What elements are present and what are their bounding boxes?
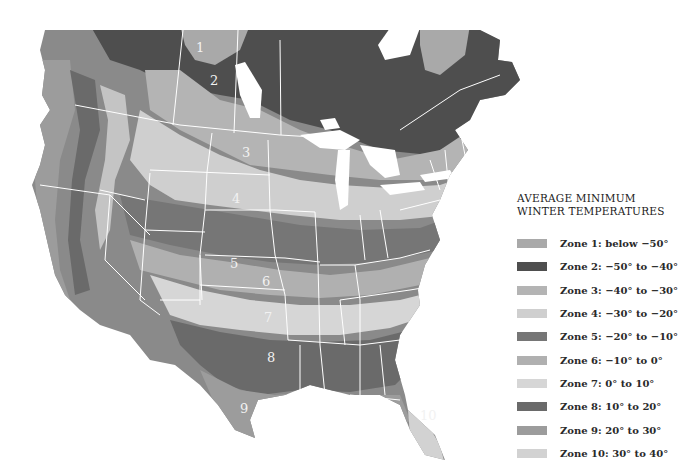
legend-item-zone-6: Zone 6: −10° to 0° [517, 348, 695, 371]
legend-label: Zone 1: below −50° [560, 238, 668, 249]
legend-item-zone-9: Zone 9: 20° to 30° [517, 418, 695, 441]
swatch-zone-2 [517, 262, 547, 271]
legend-item-zone-3: Zone 3: −40° to −30° [517, 279, 695, 302]
swatch-zone-5 [517, 332, 547, 341]
swatch-zone-7 [517, 379, 547, 388]
swatch-zone-3 [517, 286, 547, 295]
legend-label: Zone 7: 0° to 10° [560, 378, 654, 389]
zone-number-7: 7 [264, 310, 272, 325]
legend-label: Zone 9: 20° to 30° [560, 425, 661, 436]
legend: AVERAGE MINIMUM WINTER TEMPERATURES Zone… [517, 192, 695, 465]
legend-item-zone-10: Zone 10: 30° to 40° [517, 442, 695, 465]
legend-item-zone-4: Zone 4: −30° to −20° [517, 302, 695, 325]
swatch-zone-9 [517, 426, 547, 435]
legend-label: Zone 3: −40° to −30° [560, 285, 678, 296]
swatch-zone-1 [517, 239, 547, 248]
legend-label: Zone 6: −10° to 0° [560, 355, 663, 366]
legend-label: Zone 8: 10° to 20° [560, 401, 661, 412]
legend-title-line-2: WINTER TEMPERATURES [517, 205, 695, 218]
zone-number-2: 2 [210, 73, 218, 88]
legend-label: Zone 2: −50° to −40° [560, 261, 678, 272]
legend-item-zone-8: Zone 8: 10° to 20° [517, 395, 695, 418]
swatch-zone-6 [517, 356, 547, 365]
zone-number-3: 3 [242, 145, 250, 160]
legend-item-zone-1: Zone 1: below −50° [517, 232, 695, 255]
legend-title: AVERAGE MINIMUM WINTER TEMPERATURES [517, 192, 695, 218]
zone-number-4: 4 [232, 191, 240, 206]
zone-number-1: 1 [196, 40, 204, 55]
zone-number-6: 6 [262, 274, 270, 289]
legend-label: Zone 10: 30° to 40° [560, 448, 668, 459]
legend-title-line-1: AVERAGE MINIMUM [517, 192, 695, 205]
zone-number-10: 10 [420, 408, 437, 423]
legend-item-zone-7: Zone 7: 0° to 10° [517, 372, 695, 395]
legend-label: Zone 4: −30° to −20° [560, 308, 678, 319]
swatch-zone-8 [517, 402, 547, 411]
zone-number-9: 9 [240, 401, 248, 416]
swatch-zone-4 [517, 309, 547, 318]
swatch-zone-10 [517, 449, 547, 458]
legend-label: Zone 5: −20° to −10° [560, 331, 678, 342]
legend-item-zone-2: Zone 2: −50° to −40° [517, 255, 695, 278]
legend-item-zone-5: Zone 5: −20° to −10° [517, 325, 695, 348]
zone-number-8: 8 [267, 350, 275, 365]
zone-number-5: 5 [230, 256, 238, 271]
